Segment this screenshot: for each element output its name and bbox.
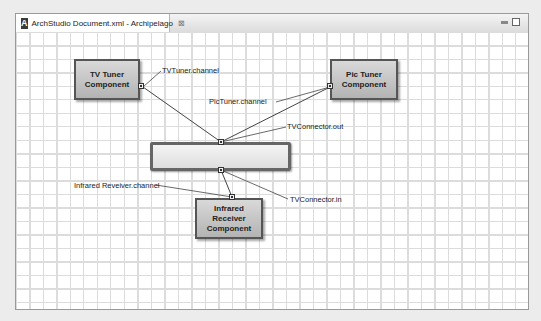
tab-title: ArchStudio Document.xml - Archipelago bbox=[32, 19, 173, 28]
tv-tuner-channel-label: TVTuner.channel bbox=[162, 66, 219, 75]
component-label: Component bbox=[342, 80, 386, 89]
component-label: Pic Tuner bbox=[346, 70, 382, 79]
infrared-receiver-component[interactable]: Infrared Receiver Component bbox=[195, 198, 263, 239]
tv-tuner-component[interactable]: TV Tuner Component bbox=[74, 59, 140, 100]
component-label: TV Tuner bbox=[90, 70, 124, 79]
component-label: Component bbox=[207, 224, 251, 233]
maximize-button[interactable] bbox=[512, 18, 520, 26]
tv-connector-out-label: TVConnector.out bbox=[287, 122, 343, 131]
diagram-canvas[interactable]: TV Tuner Component TVTuner.channel Pic T… bbox=[16, 32, 528, 309]
editor-tab[interactable]: A ArchStudio Document.xml - Archipelago … bbox=[16, 14, 170, 32]
editor-window: A ArchStudio Document.xml - Archipelago … bbox=[15, 13, 529, 310]
component-label: Component bbox=[85, 80, 129, 89]
pic-tuner-channel-label: PicTuner.channel bbox=[209, 97, 267, 106]
pic-tuner-channel-port[interactable] bbox=[327, 83, 333, 89]
tv-tuner-channel-port[interactable] bbox=[138, 83, 144, 89]
component-label: Infrared Receiver bbox=[212, 204, 245, 223]
tv-connector-in-label: TVConnector.in bbox=[290, 195, 342, 204]
minimize-button[interactable] bbox=[501, 21, 508, 24]
infrared-channel-label: Infrared Reveiver.channel bbox=[74, 181, 159, 190]
close-icon[interactable]: ⊠ bbox=[178, 19, 185, 28]
title-bar: A ArchStudio Document.xml - Archipelago … bbox=[16, 14, 528, 33]
archstudio-icon: A bbox=[21, 18, 28, 29]
infrared-channel-port[interactable] bbox=[229, 194, 235, 200]
tv-connector-out-port[interactable] bbox=[218, 139, 224, 145]
tv-connector-in-port[interactable] bbox=[218, 167, 224, 173]
pic-tuner-component[interactable]: Pic Tuner Component bbox=[330, 59, 398, 100]
